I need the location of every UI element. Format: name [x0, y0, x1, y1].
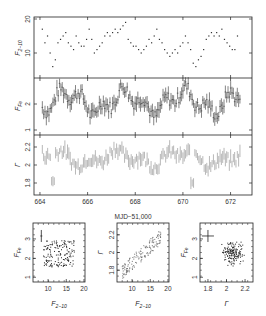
scatter-panels: 101520123F2−10FFe1015201.822.2F2−10Γ1.82…: [13, 223, 253, 309]
x-tick-label: 2: [225, 285, 229, 292]
x-tick-label: 20: [80, 285, 88, 292]
scatter-panel: 1015201.822.2F2−10Γ: [97, 223, 172, 309]
y-tick-label: 1: [24, 275, 31, 279]
gamma-points: [42, 140, 240, 189]
x-tick-label: 664: [35, 198, 46, 205]
x-tick-label: 668: [130, 198, 141, 205]
x-tick-label: 10: [128, 285, 136, 292]
x-axis-label: MJD−51,000: [114, 213, 151, 220]
y-tick-label: 20: [24, 15, 31, 23]
y-tick-label: 3: [191, 237, 198, 241]
flux-fe-points: [42, 77, 241, 126]
y-axis-label: FFe: [13, 247, 22, 257]
time-series-panels: 664666668670672MJD−51,000 2010121.822.2F…: [14, 15, 252, 220]
x-tick-label: 1.8: [203, 285, 212, 292]
x-axis-label: F2−10: [51, 300, 67, 309]
y-tick-label: 2.2: [108, 230, 115, 239]
figure: 664666668670672MJD−51,000 2010121.822.2F…: [0, 0, 266, 316]
y-tick-label: 10: [24, 49, 31, 57]
y-axis-label: Γ: [14, 162, 21, 167]
y-axis-label: FFe: [14, 101, 23, 111]
x-axis-label: F2−10: [135, 300, 151, 309]
y-tick-label: 2: [24, 256, 31, 260]
y-tick-label: 1.8: [108, 265, 115, 274]
y-axis-label: Γ: [97, 250, 104, 255]
x-axis-label: Γ: [225, 300, 230, 307]
y-tick-label: 1: [24, 128, 31, 132]
x-tick-label: 670: [177, 198, 188, 205]
y-axis-label: F2−10: [14, 40, 23, 56]
x-tick-label: 10: [44, 285, 52, 292]
x-tick-label: 15: [63, 285, 71, 292]
x-tick-label: 672: [225, 198, 236, 205]
scatter-panel: 1.822.2123ΓFFe: [180, 223, 253, 307]
y-tick-label: 2: [24, 102, 31, 106]
y-tick-label: 1.8: [24, 178, 31, 187]
scatter-panel: 101520123F2−10FFe: [13, 223, 88, 309]
y-tick-label: 3: [24, 237, 31, 241]
y-tick-label: 2: [24, 163, 31, 167]
x-tick-label: 20: [164, 285, 172, 292]
y-tick-label: 2.2: [24, 142, 31, 151]
x-tick-label: 666: [82, 198, 93, 205]
y-tick-label: 2: [191, 256, 198, 260]
flux-2-10-points: [42, 22, 238, 67]
time-axis-ticks: 664666668670672MJD−51,000: [35, 17, 237, 220]
y-tick-label: 2: [108, 250, 115, 254]
y-axis-label: FFe: [180, 247, 189, 257]
x-tick-label: 15: [147, 285, 155, 292]
x-tick-label: 2.2: [241, 285, 250, 292]
y-tick-label: 1: [191, 275, 198, 279]
